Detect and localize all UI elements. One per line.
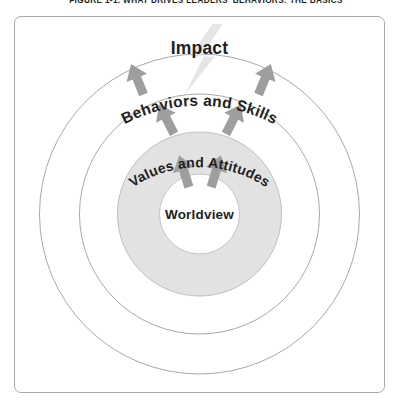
figure-root: FIGURE 1-1. WHAT DRIVES LEADERS' BEHAVIO… — [0, 0, 412, 409]
worldview-label: Worldview — [165, 207, 234, 222]
concentric-rings-diagram: Impact Behaviors and Skills Values and A… — [14, 16, 385, 393]
figure-caption: FIGURE 1-1. WHAT DRIVES LEADERS' BEHAVIO… — [0, 0, 412, 4]
impact-label: Impact — [171, 38, 229, 58]
